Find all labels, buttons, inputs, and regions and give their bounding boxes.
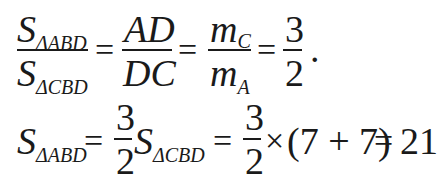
frac3-numerator: mC xyxy=(210,10,251,54)
equals-sign: = xyxy=(213,124,232,158)
equals-sign: = xyxy=(84,124,103,158)
times-sign: × xyxy=(265,124,284,158)
equals-sign: = xyxy=(178,33,197,67)
fraction-bar xyxy=(17,49,88,51)
fraction-bar xyxy=(283,49,302,51)
equals-sign: = xyxy=(257,33,276,67)
fraction-bar xyxy=(122,49,172,51)
subscript-cbd: ΔCBD xyxy=(36,76,88,98)
symbol-s: S xyxy=(17,8,36,50)
equals-sign: = xyxy=(374,124,393,158)
frac-numerator: 3 xyxy=(245,98,264,136)
frac-denominator: 2 xyxy=(116,142,135,180)
frac4-denominator: 2 xyxy=(285,54,304,92)
mid-term: SΔCBD xyxy=(134,122,205,166)
frac1-numerator: SΔABD xyxy=(17,10,87,54)
frac2-denominator: DC xyxy=(123,54,176,92)
symbol-s: S xyxy=(17,52,36,94)
frac4-numerator: 3 xyxy=(285,10,304,48)
frac3-denominator: mA xyxy=(210,54,250,98)
frac-denominator: 2 xyxy=(245,142,264,180)
symbol-s: S xyxy=(134,120,153,162)
subscript-a: A xyxy=(237,76,249,98)
fraction-bar xyxy=(208,49,251,51)
frac1-denominator: SΔCBD xyxy=(17,54,88,98)
frac-numerator: 3 xyxy=(116,98,135,136)
equals-sign: = xyxy=(95,33,114,67)
symbol-m: m xyxy=(210,8,237,50)
subscript-cbd: ΔCBD xyxy=(153,144,205,166)
lhs-term: SΔABD xyxy=(17,122,87,166)
symbol-s: S xyxy=(17,120,36,162)
symbol-m: m xyxy=(210,52,237,94)
frac2-numerator: AD xyxy=(124,10,175,48)
result-value: 21 xyxy=(400,122,438,160)
subscript-abd: ΔABD xyxy=(36,144,87,166)
period: . xyxy=(310,30,320,68)
